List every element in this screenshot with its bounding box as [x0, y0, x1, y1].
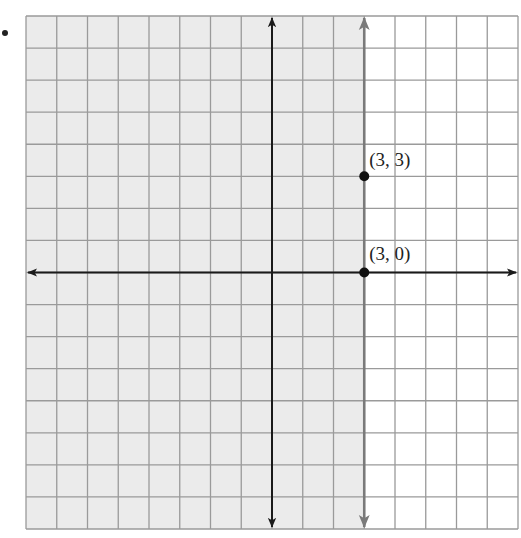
data-point	[359, 268, 369, 278]
point-label-3-3: (3, 3)	[369, 149, 410, 171]
data-point	[359, 171, 369, 181]
coordinate-plane	[0, 0, 521, 538]
point-label-3-0: (3, 0)	[369, 243, 410, 265]
